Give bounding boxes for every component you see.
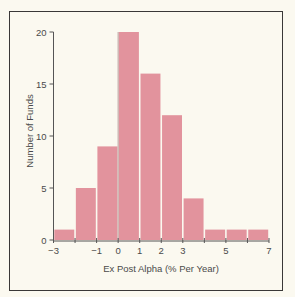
x-tick-label: −3: [48, 245, 59, 256]
x-tick-label: 1: [137, 245, 142, 256]
histogram-bar: [97, 146, 117, 240]
y-tick-label: 15: [36, 79, 47, 90]
y-tick-label: 5: [41, 183, 46, 194]
y-axis-title: Number of Funds: [24, 94, 35, 168]
histogram-bar: [162, 115, 182, 240]
histogram-bar: [227, 230, 247, 240]
histogram-bar: [141, 74, 161, 240]
x-tick-label: 7: [266, 245, 271, 256]
y-tick-label: 20: [36, 27, 47, 38]
histogram-bar: [54, 230, 74, 240]
histogram-bar: [76, 188, 96, 240]
histogram-bar: [119, 32, 139, 240]
histogram-bar: [248, 230, 268, 240]
histogram-chart: 05101520−3−1012357 Ex Post Alpha (% Per …: [0, 0, 295, 297]
x-tick-label: −1: [91, 245, 102, 256]
x-tick-label: 2: [159, 245, 164, 256]
x-tick-label: 0: [116, 245, 121, 256]
y-tick-label: 10: [36, 131, 47, 142]
bars-group: [54, 32, 268, 240]
x-tick-label: 3: [180, 245, 185, 256]
x-tick-label: 5: [223, 245, 228, 256]
histogram-bar: [205, 230, 225, 240]
histogram-bar: [184, 198, 204, 240]
y-tick-label: 0: [41, 235, 46, 246]
x-axis-title: Ex Post Alpha (% Per Year): [103, 263, 219, 274]
